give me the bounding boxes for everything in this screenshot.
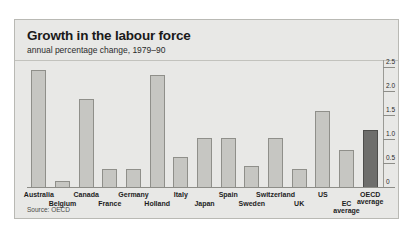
bar-us	[315, 111, 330, 188]
plot-area	[27, 64, 382, 188]
bar-italy	[173, 157, 188, 188]
y-axis-tick-line	[383, 67, 395, 68]
x-axis-label-line: EC	[342, 200, 352, 207]
y-axis-tick-line	[383, 91, 395, 92]
x-axis-label-canada: Canada	[74, 191, 99, 198]
source-note: Source: OECD	[27, 206, 70, 213]
bar-australia	[31, 70, 46, 188]
x-axis-label-oecd-average: OECDaverage	[357, 191, 383, 205]
x-axis-baseline	[27, 187, 394, 188]
bar-france	[102, 169, 117, 188]
x-axis-label-japan: Japan	[194, 200, 214, 207]
bar-holland	[150, 75, 165, 188]
x-axis-label-holland: Holland	[144, 200, 170, 207]
y-axis-tick-line	[383, 163, 395, 164]
x-axis-label-uk: UK	[294, 200, 304, 207]
y-axis: 00.51.01.52.02.5	[383, 58, 399, 190]
screenshot-root: Growth in the labour force annual percen…	[0, 0, 413, 237]
bar-oecd-average	[363, 130, 378, 188]
y-axis-tick-line	[383, 115, 395, 116]
x-axis-label-italy: Italy	[174, 191, 188, 198]
bar-ec-average	[339, 150, 354, 188]
chart-subtitle: annual percentage change, 1979–90	[27, 45, 165, 55]
y-axis-tick-label: 0.5	[386, 154, 395, 161]
y-axis-tick-label: 1.5	[386, 106, 395, 113]
bar-canada	[79, 99, 94, 188]
bar-germany	[126, 169, 141, 188]
bar-sweden	[244, 166, 259, 188]
y-axis-tick-label: 0	[386, 178, 390, 185]
chart-panel: Growth in the labour force annual percen…	[14, 19, 399, 219]
x-axis-label-ec-average: ECaverage	[333, 200, 359, 214]
y-axis-tick-label: 2.5	[386, 58, 395, 65]
x-axis-label-sweden: Sweden	[239, 200, 265, 207]
x-axis-label-line: average	[333, 207, 359, 214]
x-axis-label-line: OECD	[360, 191, 380, 198]
bar-japan	[197, 138, 212, 188]
x-axis-label-switzerland: Switzerland	[256, 191, 295, 198]
bar-spain	[221, 138, 236, 188]
x-axis-label-spain: Spain	[219, 191, 238, 198]
header-divider	[15, 60, 398, 61]
y-axis-tick-label: 2.0	[386, 82, 395, 89]
bar-switzerland	[268, 138, 283, 188]
x-axis-label-line: average	[357, 198, 383, 205]
bar-uk	[292, 169, 307, 188]
y-axis-tick-line	[383, 187, 395, 188]
y-axis-tick-label: 1.0	[386, 130, 395, 137]
x-axis-labels: AustraliaBelgiumCanadaFranceGermanyHolla…	[27, 189, 397, 217]
x-axis-label-australia: Australia	[24, 191, 54, 198]
x-axis-label-germany: Germany	[118, 191, 148, 198]
y-axis-tick-line	[383, 139, 395, 140]
x-axis-label-france: France	[98, 200, 121, 207]
page-title: Growth in the labour force	[27, 28, 191, 43]
x-axis-label-us: US	[318, 191, 328, 198]
